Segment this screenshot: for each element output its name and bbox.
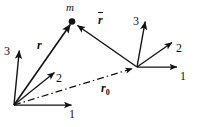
right-axis-2-line [137,43,172,68]
left-axis-1-label: 1 [69,108,75,120]
vector-r-line [14,25,70,106]
right-axis-3-label: 3 [133,15,139,27]
right-axis-2-label: 2 [176,42,182,54]
right-axis-1-label: 1 [180,70,186,82]
right-axis-3-line [137,22,145,68]
mass-point-dot [69,18,76,25]
vector-r0-label: r0 [101,82,110,97]
vector-r-label: r [37,39,42,51]
physics-vector-diagram: m r r r0 3 2 1 3 2 1 [0,0,203,127]
left-axis-3-line [14,51,19,106]
right-coordinate-frame [137,22,177,68]
vector-rbar-letter: r [98,13,103,27]
left-axis-3-label: 3 [4,45,10,57]
vector-r0-subscript: 0 [106,88,110,97]
overbar-glyph [98,12,103,13]
vector-rbar-label: r [98,14,103,26]
rbar-overbar-wrap: r [98,14,103,26]
left-coordinate-frame [14,51,72,106]
vector-r0-line [14,69,133,106]
mass-label: m [66,2,74,13]
left-axis-2-label: 2 [56,72,62,84]
vector-rbar-line [78,26,138,68]
